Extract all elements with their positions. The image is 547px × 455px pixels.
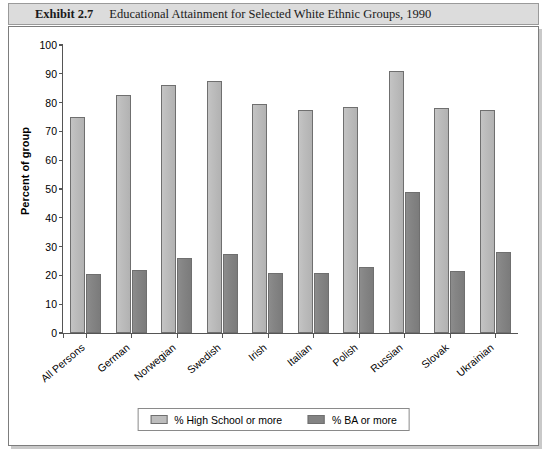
bar [252, 104, 267, 333]
chart-canvas: Percent of group 0102030405060708090100 … [9, 27, 538, 445]
bar-group [154, 45, 200, 333]
bar-group [200, 45, 246, 333]
x-axis-label-cell: Irish [244, 337, 290, 407]
x-axis-label-cell: Swedish [199, 337, 245, 407]
exhibit-number: Exhibit 2.7 [35, 7, 93, 22]
y-axis-tick-label: 100 [23, 40, 57, 51]
y-axis-tick-label: 0 [23, 328, 57, 339]
bar-group [109, 45, 155, 333]
chart-frame: Percent of group 0102030405060708090100 … [8, 26, 539, 446]
y-axis-tick-label: 60 [23, 155, 57, 166]
bar [223, 254, 238, 333]
bar [70, 117, 85, 333]
bar [496, 252, 511, 333]
y-axis-tick-label: 50 [23, 184, 57, 195]
x-axis-label-text: Irish [246, 341, 269, 363]
plot-area: 0102030405060708090100 [62, 45, 518, 334]
y-axis-tick-label: 20 [23, 270, 57, 281]
bar [405, 192, 420, 333]
bar [434, 108, 449, 333]
x-axis-label-cell: Italian [290, 337, 336, 407]
y-axis-tick-label: 30 [23, 241, 57, 252]
y-axis-tick-label: 10 [23, 299, 57, 310]
legend-label-high-school: % High School or more [174, 414, 282, 426]
bar [268, 273, 283, 333]
bar [298, 110, 313, 333]
legend-item-high-school: % High School or more [150, 414, 282, 426]
x-axis-label-cell: Ukrainian [472, 337, 518, 407]
bar-group [382, 45, 428, 333]
x-axis-labels: All PersonsGermanNorwegianSwedishIrishIt… [62, 337, 517, 407]
bar [389, 71, 404, 333]
y-axis-tick-label: 90 [23, 69, 57, 80]
x-axis-label-cell: Russian [381, 337, 427, 407]
bar-groups [63, 45, 518, 333]
y-axis-tick-label: 80 [23, 97, 57, 108]
x-axis-label-text: All Persons [38, 341, 86, 384]
legend-swatch-icon-high-school [150, 415, 167, 424]
exhibit-header: Exhibit 2.7 Educational Attainment for S… [8, 3, 539, 25]
bar-group [63, 45, 109, 333]
bar-group [473, 45, 519, 333]
bar-group [245, 45, 291, 333]
exhibit-figure: Exhibit 2.7 Educational Attainment for S… [0, 0, 547, 455]
bar-group [336, 45, 382, 333]
x-axis-label-text: Polish [330, 341, 360, 369]
bar [480, 110, 495, 333]
bar [116, 95, 131, 333]
legend-swatch-icon-ba [308, 415, 325, 424]
bar [161, 85, 176, 333]
chart-legend: % High School or more % BA or more [137, 408, 410, 431]
bar-group [291, 45, 337, 333]
legend-item-ba: % BA or more [308, 414, 397, 426]
exhibit-title: Educational Attainment for Selected Whit… [109, 7, 431, 22]
bar [343, 107, 358, 333]
bar-group [427, 45, 473, 333]
y-axis-tick-label: 70 [23, 126, 57, 137]
bar [177, 258, 192, 333]
bar [207, 81, 222, 333]
legend-label-ba: % BA or more [332, 414, 397, 426]
y-axis-tick-label: 40 [23, 213, 57, 224]
x-axis-label-text: Italian [285, 341, 314, 368]
